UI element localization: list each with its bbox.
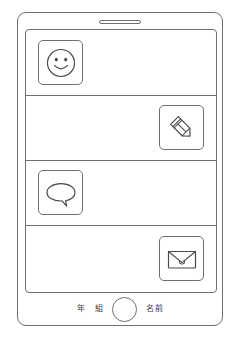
screen-row[interactable] bbox=[26, 160, 216, 225]
pencil-icon bbox=[165, 111, 199, 145]
smiley-face-icon bbox=[44, 46, 78, 80]
home-button[interactable] bbox=[112, 297, 137, 322]
device-screen bbox=[25, 29, 217, 293]
envelope-icon bbox=[165, 242, 199, 276]
device-frame: 年 組 名前 bbox=[17, 12, 223, 326]
screen-row[interactable] bbox=[26, 30, 216, 95]
pencil-tile[interactable] bbox=[159, 105, 204, 150]
envelope-tile[interactable] bbox=[159, 236, 204, 281]
speaker-slot-icon bbox=[99, 20, 141, 24]
speech-bubble-tile[interactable] bbox=[38, 170, 83, 215]
class-label: 組 bbox=[95, 305, 104, 313]
screen-row[interactable] bbox=[26, 225, 216, 293]
smiley-face-tile[interactable] bbox=[38, 40, 83, 85]
footer-name-strip: 年 組 名前 bbox=[18, 293, 222, 325]
year-label: 年 bbox=[77, 305, 86, 313]
worksheet-page: 年 組 名前 bbox=[0, 0, 240, 338]
name-label: 名前 bbox=[146, 305, 163, 313]
speech-bubble-icon bbox=[44, 176, 78, 210]
screen-row[interactable] bbox=[26, 95, 216, 160]
